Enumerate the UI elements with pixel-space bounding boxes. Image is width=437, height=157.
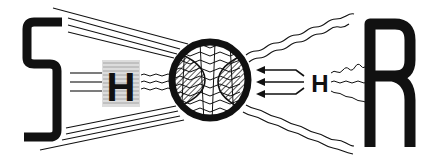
- right-top-wavy-lines: [246, 14, 354, 62]
- arrow-head-icon: [256, 66, 265, 74]
- letter-s: S: [0, 0, 62, 137]
- right-h-label: H: [311, 70, 328, 97]
- left-h-label: H: [107, 65, 136, 109]
- right-bottom-wavy-lines: [243, 105, 354, 154]
- left-bottom-lines: [40, 106, 184, 150]
- arrow-head-icon: [256, 78, 265, 86]
- central-hatched-circle: [170, 42, 250, 122]
- right-input-wavy-lines: [331, 64, 367, 103]
- left-h-block: H: [102, 60, 140, 109]
- arrow-head-icon: [256, 90, 265, 98]
- left-top-lines: [53, 8, 188, 58]
- right-arrows: [256, 66, 304, 98]
- left-input-lines: [70, 73, 102, 91]
- s-h-circle-h-r-diagram: S H: [0, 0, 437, 157]
